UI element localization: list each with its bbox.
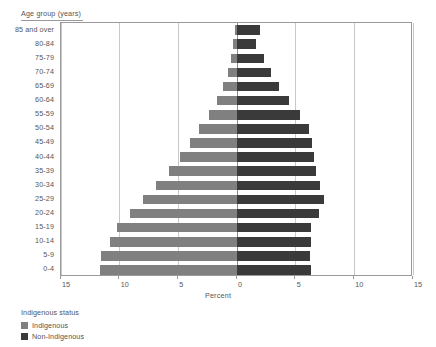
bar-indigenous	[180, 152, 237, 162]
bar-non-indigenous	[237, 39, 256, 49]
y-axis-tick-label: 20-24	[35, 208, 54, 217]
bar-non-indigenous	[237, 25, 260, 35]
y-axis-tick-label: 80-84	[35, 39, 54, 48]
legend-item: Indigenous	[21, 320, 84, 331]
y-axis-tick-label: 70-74	[35, 67, 54, 76]
bar-row	[61, 108, 411, 122]
y-axis-tick-label: 60-64	[35, 95, 54, 104]
bar-non-indigenous	[237, 124, 309, 134]
y-axis-tick-label: 40-44	[35, 152, 54, 161]
y-axis-tick-label: 5-9	[43, 250, 54, 259]
bar-row	[61, 206, 411, 220]
y-axis-title: Age group (years)	[21, 9, 83, 21]
y-axis-tick-label: 85 and over	[15, 25, 54, 34]
x-axis-tick-mark	[177, 276, 178, 279]
x-axis-tick-label: 15	[414, 280, 422, 289]
x-axis-tick-mark	[60, 276, 61, 279]
y-axis-tick-label: 25-29	[35, 194, 54, 203]
x-axis-tick-mark	[353, 276, 354, 279]
legend: Indigenous status IndigenousNon-Indigeno…	[21, 308, 84, 342]
bar-row	[61, 235, 411, 249]
bar-row	[61, 263, 411, 277]
bar-indigenous	[143, 195, 237, 205]
plot-area	[60, 22, 412, 276]
y-axis-tick-label: 30-34	[35, 180, 54, 189]
bar-rows	[61, 23, 411, 275]
bar-row	[61, 164, 411, 178]
bar-indigenous	[217, 96, 237, 106]
bar-non-indigenous	[237, 223, 311, 233]
legend-item-label: Non-Indigenous	[32, 332, 84, 341]
bar-indigenous	[209, 110, 237, 120]
bar-non-indigenous	[237, 68, 271, 78]
bar-row	[61, 51, 411, 65]
bar-non-indigenous	[237, 237, 311, 247]
y-axis-tick-label: 75-79	[35, 53, 54, 62]
bar-row	[61, 122, 411, 136]
legend-item: Non-Indigenous	[21, 331, 84, 342]
y-axis-tick-label: 10-14	[35, 236, 54, 245]
bar-row	[61, 249, 411, 263]
bar-indigenous	[169, 166, 237, 176]
x-axis-tick-labels: 15105051015	[60, 276, 412, 290]
bar-indigenous	[130, 209, 237, 219]
y-axis-tick-labels: 85 and over80-8475-7970-7465-6960-6455-5…	[0, 22, 58, 276]
x-axis-tick-label: 10	[355, 280, 363, 289]
bar-row	[61, 79, 411, 93]
y-axis-tick-label: 15-19	[35, 222, 54, 231]
legend-item-label: Indigenous	[32, 321, 68, 330]
bar-non-indigenous	[237, 209, 319, 219]
x-axis-title: Percent	[0, 291, 436, 300]
bar-row	[61, 178, 411, 192]
bar-non-indigenous	[237, 138, 312, 148]
y-axis-tick-label: 55-59	[35, 109, 54, 118]
y-axis-tick-label: 35-39	[35, 166, 54, 175]
bar-non-indigenous	[237, 195, 324, 205]
bar-non-indigenous	[237, 96, 289, 106]
y-axis-tick-label: 45-49	[35, 137, 54, 146]
bar-non-indigenous	[237, 82, 279, 92]
bar-row	[61, 23, 411, 37]
legend-title: Indigenous status	[21, 308, 84, 317]
bar-indigenous	[101, 251, 237, 261]
bar-non-indigenous	[237, 181, 320, 191]
bar-non-indigenous	[237, 166, 316, 176]
y-axis-tick-label: 65-69	[35, 81, 54, 90]
bar-row	[61, 37, 411, 51]
x-axis-tick-mark	[118, 276, 119, 279]
bar-indigenous	[199, 124, 237, 134]
x-axis-tick-label: 0	[238, 280, 242, 289]
bar-indigenous	[156, 181, 237, 191]
bar-indigenous	[228, 68, 237, 78]
legend-swatch-icon	[21, 322, 28, 329]
legend-swatch-icon	[21, 333, 28, 340]
bar-row	[61, 221, 411, 235]
x-axis-tick-label: 5	[297, 280, 301, 289]
bar-indigenous	[100, 265, 237, 275]
bar-row	[61, 150, 411, 164]
bar-indigenous	[223, 82, 237, 92]
bar-non-indigenous	[237, 152, 314, 162]
gridline	[413, 23, 414, 275]
bar-row	[61, 65, 411, 79]
bar-row	[61, 192, 411, 206]
bar-non-indigenous	[237, 54, 264, 64]
x-axis-tick-label: 5	[179, 280, 183, 289]
y-axis-tick-label: 0-4	[43, 264, 54, 273]
legend-items: IndigenousNon-Indigenous	[21, 320, 84, 342]
bar-non-indigenous	[237, 265, 311, 275]
bar-indigenous	[190, 138, 237, 148]
x-axis-tick-mark	[412, 276, 413, 279]
population-pyramid-chart: Age group (years) 85 and over80-8475-797…	[0, 0, 436, 347]
x-axis-tick-label: 15	[62, 280, 70, 289]
bar-indigenous	[110, 237, 237, 247]
bar-row	[61, 136, 411, 150]
x-axis-tick-mark	[294, 276, 295, 279]
bar-non-indigenous	[237, 251, 310, 261]
bar-non-indigenous	[237, 110, 300, 120]
bar-row	[61, 94, 411, 108]
y-axis-tick-label: 50-54	[35, 123, 54, 132]
bar-indigenous	[117, 223, 237, 233]
x-axis-tick-label: 10	[121, 280, 129, 289]
x-axis-tick-mark	[236, 276, 237, 279]
